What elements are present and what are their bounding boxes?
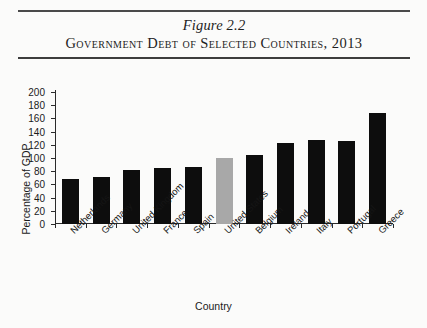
figure-page: Figure 2.2 Government Debt of Selected C… xyxy=(0,0,427,328)
y-tick-label: 200 xyxy=(28,87,45,98)
x-axis-title: Country xyxy=(0,300,427,312)
figure-number: Figure 2.2 xyxy=(18,17,410,34)
figure-header: Figure 2.2 Government Debt of Selected C… xyxy=(18,10,410,59)
y-tick-label: 40 xyxy=(34,192,45,203)
header-rule-bottom xyxy=(18,57,410,59)
y-tick-label: 120 xyxy=(28,139,45,150)
figure-title: Government Debt of Selected Countries, 2… xyxy=(18,35,410,52)
bar xyxy=(216,158,233,224)
header-rule-top xyxy=(18,10,410,12)
y-tick-label: 140 xyxy=(28,126,45,137)
y-tick-label: 80 xyxy=(34,166,45,177)
y-tick-label: 180 xyxy=(28,100,45,111)
bar xyxy=(62,179,79,224)
bar xyxy=(338,141,355,224)
bar xyxy=(308,140,325,224)
bar-chart: Percentage of GDP 0204060801001201401601… xyxy=(0,78,427,328)
y-tick-label: 160 xyxy=(28,113,45,124)
y-tick-label: 100 xyxy=(28,153,45,164)
y-tick-label: 60 xyxy=(34,179,45,190)
x-axis-labels: NetherlandsGermanyUnited KingdomFranceSp… xyxy=(55,228,393,300)
y-tick-label: 20 xyxy=(34,205,45,216)
y-tick-label: 0 xyxy=(39,219,45,230)
